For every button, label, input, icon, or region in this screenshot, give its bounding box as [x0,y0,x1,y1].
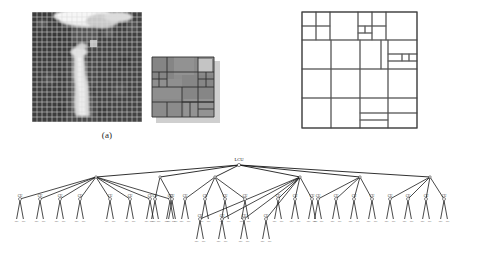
svg-text:CU: CU [406,194,411,198]
tree-nodes: CUPUTUCUPUTUCUPUTUCUPUTUCUPUTUCUPUTUCUPU… [15,163,450,243]
quadtree-svg [302,12,417,128]
svg-text:CU: CU [108,194,113,198]
coding-tree-diagram: CUPUTUCUPUTUCUPUTUCUPUTUCUPUTUCUPUTUCUPU… [0,155,479,247]
svg-text:PU: PU [439,219,444,223]
svg-text:TU: TU [355,219,360,223]
panel-b-quadtree: (b) [240,0,479,155]
svg-text:TU: TU [427,219,432,223]
caption-a: (a) [72,130,142,140]
svg-text:PU: PU [261,239,266,243]
svg-text:CU: CU [352,194,357,198]
svg-text:CU: CU [316,194,321,198]
svg-text:CU: CU [223,194,228,198]
svg-text:TU: TU [41,219,46,223]
panel-a-image-with-grid: (a) [0,0,240,155]
svg-text:CU: CU [442,194,447,198]
svg-text:PU: PU [105,219,110,223]
svg-text:CU: CU [183,194,188,198]
svg-text:CU: CU [293,194,298,198]
svg-text:CU: CU [334,194,339,198]
svg-text:PU: PU [180,219,185,223]
inset-highlight-block [198,59,212,72]
panel-c-coding-tree: CUPUTUCUPUTUCUPUTUCUPUTUCUPUTUCUPUTUCUPU… [0,155,479,261]
magnified-ctu-inset [152,57,220,123]
svg-text:TU: TU [156,219,161,223]
photo-svg [32,12,142,122]
svg-text:CU: CU [170,194,175,198]
svg-text:PU: PU [125,219,130,223]
ctu-grid-photograph [32,12,142,122]
svg-text:PU: PU [273,219,278,223]
svg-text:TU: TU [186,219,191,223]
svg-text:PU: PU [385,219,390,223]
svg-text:CU: CU [276,194,281,198]
svg-text:PU: PU [217,239,222,243]
svg-text:PU: PU [195,239,200,243]
coding-tree-svg: CUPUTUCUPUTUCUPUTUCUPUTUCUPUTUCUPUTUCUPU… [0,155,479,247]
svg-text:TU: TU [373,219,378,223]
svg-text:CU: CU [264,214,269,218]
svg-text:PU: PU [403,219,408,223]
svg-text:PU: PU [15,219,20,223]
svg-text:CU: CU [18,194,23,198]
svg-text:TU: TU [226,219,231,223]
svg-text:TU: TU [391,219,396,223]
svg-text:TU: TU [21,219,26,223]
svg-text:PU: PU [35,219,40,223]
svg-text:TU: TU [201,239,206,243]
svg-text:CU: CU [424,194,429,198]
svg-text:CU: CU [78,194,83,198]
svg-text:TU: TU [267,239,272,243]
svg-text:CU: CU [128,194,133,198]
svg-text:TU: TU [245,239,250,243]
svg-text:CU: CU [220,214,225,218]
svg-text:CU: CU [310,194,315,198]
svg-text:TU: TU [409,219,414,223]
quadtree-partition-diagram [302,12,417,128]
svg-text:CU: CU [388,194,393,198]
highlighted-ctu-block [90,40,97,47]
figure-root: (a) (b) CUPUTUCUPUTUCUPUTUCUPUTUCUPUTUCU… [0,0,479,261]
svg-text:TU: TU [81,219,86,223]
svg-text:PU: PU [331,219,336,223]
svg-text:CU: CU [58,194,63,198]
svg-text:CU: CU [38,194,43,198]
svg-text:TU: TU [319,219,324,223]
svg-text:TU: TU [337,219,342,223]
svg-text:PU: PU [145,219,150,223]
svg-text:PU: PU [367,219,372,223]
svg-text:CU: CU [370,194,375,198]
svg-text:CU: CU [242,214,247,218]
svg-text:CU: CU [243,194,248,198]
lcu-root-label: LCU [234,157,244,162]
svg-text:TU: TU [296,219,301,223]
svg-text:TU: TU [246,219,251,223]
svg-text:CU: CU [203,194,208,198]
svg-text:TU: TU [279,219,284,223]
svg-text:TU: TU [61,219,66,223]
svg-text:PU: PU [290,219,295,223]
svg-text:TU: TU [445,219,450,223]
tree-edges [17,165,448,239]
svg-text:TU: TU [111,219,116,223]
svg-text:PU: PU [307,219,312,223]
svg-text:PU: PU [239,239,244,243]
inset-svg [152,57,220,123]
svg-text:TU: TU [173,219,178,223]
svg-text:PU: PU [75,219,80,223]
svg-text:PU: PU [349,219,354,223]
svg-text:PU: PU [421,219,426,223]
quadtree-background [302,12,417,128]
svg-text:TU: TU [206,219,211,223]
svg-text:CU: CU [153,194,158,198]
svg-text:TU: TU [223,239,228,243]
svg-text:PU: PU [55,219,60,223]
svg-text:TU: TU [131,219,136,223]
svg-text:CU: CU [198,214,203,218]
